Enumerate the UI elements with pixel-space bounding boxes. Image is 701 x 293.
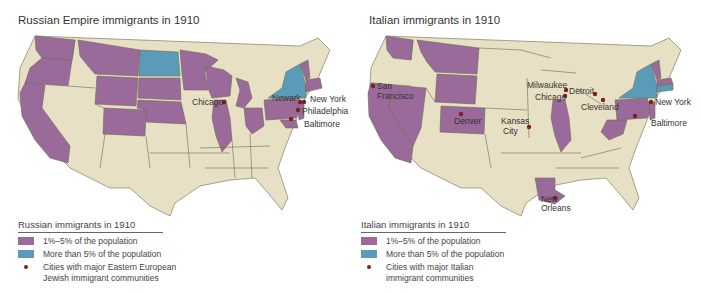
state-north-dakota — [139, 50, 180, 76]
state-massachusetts — [306, 78, 322, 92]
us-map-svg: Chicago Newark New York Philadelphia Bal… — [0, 28, 350, 218]
city-dot-philadelphia — [296, 108, 300, 112]
legend-item-cities: Cities with major Eastern European Jewis… — [18, 262, 318, 286]
us-map-russian: Chicago Newark New York Philadelphia Bal… — [0, 28, 350, 218]
legend: Russian immigrants in 1910 1%–5% of the … — [18, 219, 318, 286]
city-dot-new-york — [649, 100, 653, 104]
russian-immigrants-map-panel: Russian Empire immigrants in 1910 — [0, 0, 350, 293]
legend-item-1-5-percent: 1%–5% of the population — [18, 236, 318, 249]
city-label-new-orleans-2: Orleans — [541, 203, 571, 213]
city-label-chicago: Chicago — [192, 97, 223, 107]
city-label-baltimore: Baltimore — [304, 119, 340, 129]
map-title: Russian Empire immigrants in 1910 — [18, 14, 200, 26]
city-label-milwaukee: Milwaukee — [527, 80, 567, 90]
city-label-newark: Newark — [272, 93, 302, 103]
city-label-san-francisco: San — [377, 81, 392, 91]
city-label-new-york: New York — [655, 97, 692, 107]
legend-item-over-5-percent: More than 5% of the population — [18, 249, 318, 262]
state-wyoming — [95, 76, 138, 106]
city-dot-icon — [24, 265, 28, 269]
us-map-italian: San Francisco Denver Kansas City Milwauk… — [351, 28, 701, 218]
legend-item-1-5-percent: 1%–5% of the population — [361, 236, 661, 249]
italian-immigrants-map-panel: Italian immigrants in 1910 — [351, 0, 701, 293]
city-label-detroit: Detroit — [569, 86, 595, 96]
city-label-new-york: New York — [310, 94, 347, 104]
purple-swatch — [361, 237, 377, 245]
legend-item-over-5-percent: More than 5% of the population — [361, 249, 661, 262]
city-label-cleveland: Cleveland — [581, 102, 619, 112]
us-map-svg: San Francisco Denver Kansas City Milwauk… — [351, 28, 701, 218]
state-colorado — [103, 108, 146, 136]
city-label-san-francisco-2: Francisco — [377, 91, 414, 101]
state-wyoming — [435, 74, 477, 104]
city-dot-baltimore — [633, 114, 637, 118]
city-label-philadelphia: Philadelphia — [302, 106, 349, 116]
legend-title: Russian immigrants in 1910 — [18, 219, 163, 233]
city-label-baltimore: Baltimore — [651, 118, 687, 128]
city-label-kansas-city: Kansas — [501, 116, 529, 126]
blue-swatch — [18, 250, 34, 258]
city-dot-san-francisco — [371, 84, 375, 88]
state-washington — [35, 36, 75, 60]
city-label-kansas-city-2: City — [503, 126, 518, 136]
legend: Italian immigrants in 1910 1%–5% of the … — [361, 219, 661, 286]
purple-swatch — [18, 237, 34, 245]
map-title: Italian immigrants in 1910 — [369, 14, 500, 26]
city-dot-icon — [367, 265, 371, 269]
city-label-denver: Denver — [454, 116, 482, 126]
city-label-chicago: Chicago — [535, 92, 566, 102]
state-south-dakota — [138, 78, 181, 100]
city-dot-new-york — [302, 100, 306, 104]
blue-swatch — [361, 250, 377, 258]
legend-item-cities: Cities with major Italian immigrant comm… — [361, 262, 661, 286]
city-dot-baltimore — [289, 117, 293, 121]
legend-title: Italian immigrants in 1910 — [361, 219, 506, 233]
